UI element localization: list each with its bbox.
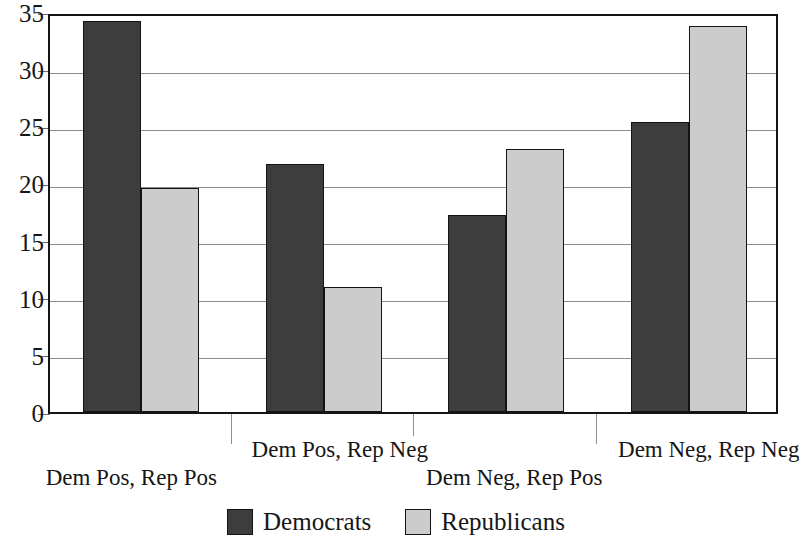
bar-democrats-group-4 — [631, 122, 689, 412]
category-label-1: Dem Pos, Rep Pos — [46, 465, 217, 491]
y-tick-label: 10 — [10, 287, 44, 312]
y-axis: 05101520253035 — [0, 0, 44, 430]
y-tick-label: 20 — [10, 172, 44, 197]
x-tick-mark — [596, 414, 597, 444]
category-label-2: Dem Pos, Rep Neg — [252, 437, 428, 463]
x-tick-mark — [231, 414, 232, 444]
y-tick-label: 5 — [10, 344, 44, 369]
bar-republicans-group-3 — [506, 149, 564, 412]
y-tick-label: 35 — [10, 1, 44, 26]
category-label-4: Dem Neg, Rep Neg — [618, 437, 799, 463]
gridline — [50, 73, 776, 74]
x-tick-mark — [413, 414, 414, 436]
bar-republicans-group-4 — [689, 26, 747, 412]
legend-label-democrats: Democrats — [263, 508, 371, 535]
legend-label-republicans: Republicans — [441, 508, 565, 535]
bar-democrats-group-3 — [448, 215, 506, 412]
legend-entry-republicans: Republicans — [405, 508, 565, 535]
category-label-3: Dem Neg, Rep Pos — [426, 465, 602, 491]
legend-swatch-republicans — [405, 509, 431, 535]
bar-democrats-group-2 — [266, 164, 324, 412]
bar-republicans-group-1 — [141, 188, 199, 412]
chart-legend: DemocratsRepublicans — [0, 508, 792, 535]
bar-republicans-group-2 — [324, 287, 382, 412]
legend-swatch-democrats — [227, 509, 253, 535]
plot-area — [48, 14, 778, 414]
y-tick-label: 30 — [10, 58, 44, 83]
bar-democrats-group-1 — [83, 21, 141, 412]
y-tick-label: 0 — [10, 401, 44, 426]
legend-entry-democrats: Democrats — [227, 508, 371, 535]
y-tick-label: 25 — [10, 115, 44, 140]
y-tick-label: 15 — [10, 230, 44, 255]
